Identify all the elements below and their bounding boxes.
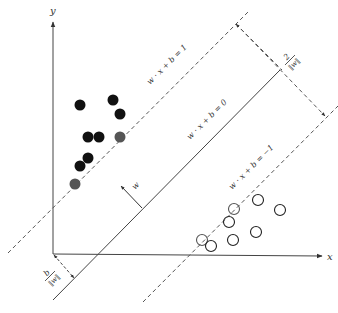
positive-point [75,100,86,111]
upper-margin-label: w · x + b = 1 [145,43,189,87]
positive-point [94,132,105,143]
positive-class-points [70,95,126,190]
positive-point [75,161,86,172]
hyperplane-line [53,70,280,300]
positive-point [115,109,126,120]
offset-label: b ‖w‖ [39,265,62,288]
x-axis-label: x [327,251,333,262]
margin-width-dimension [236,24,325,116]
margin-numerator: 2 [281,52,292,63]
negative-class-points [197,195,286,252]
positive-point [83,132,94,143]
negative-point [224,217,235,228]
support-vector-positive [115,132,126,143]
hyperplane-label: w · x + b = 0 [185,98,229,142]
support-vector-positive [70,179,81,190]
offset-numerator: b [42,268,52,278]
negative-point [228,235,239,246]
margin-width-label: 2 ‖w‖ [279,49,302,72]
y-axis-label: y [49,5,56,16]
positive-point [108,95,119,106]
svm-diagram: y x 2 ‖w‖ w b ‖w‖ w · x + b = 1 w · x + … [0,0,338,313]
positive-point [83,153,94,164]
negative-point [253,195,264,206]
negative-point [275,205,286,216]
negative-point [251,227,262,238]
support-vector-negative [229,204,240,215]
negative-point [206,241,217,252]
normal-vector-label: w [130,180,141,191]
lower-margin-label: w · x + b = −1 [227,143,275,191]
lower-margin-line [143,106,338,302]
x-axis [53,254,322,256]
normal-vector-arrow [121,186,142,208]
upper-margin-line [8,10,250,253]
